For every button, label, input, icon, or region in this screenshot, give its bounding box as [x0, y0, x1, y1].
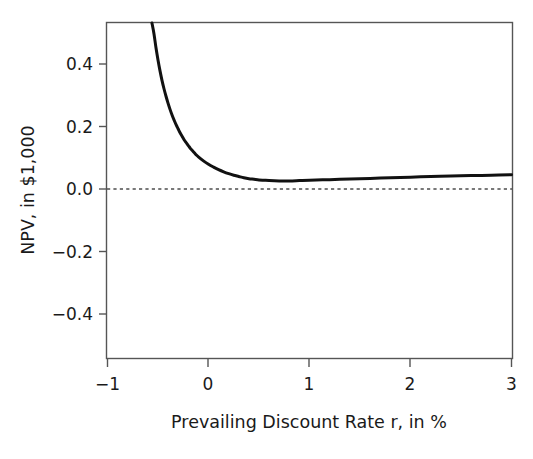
y-tick-label-4: −0.4: [52, 304, 93, 324]
chart-canvas: 0.4 0.2 0.0 −0.2 −0.4 −1 0 1 2 3 Prevail…: [0, 0, 533, 459]
y-tick-label-3: −0.2: [52, 242, 93, 262]
x-axis-title: Prevailing Discount Rate r, in %: [171, 412, 447, 432]
npv-chart-figure: 0.4 0.2 0.0 −0.2 −0.4 −1 0 1 2 3 Prevail…: [0, 0, 533, 459]
y-tick-label-1: 0.2: [66, 117, 93, 137]
x-tick-label-1: 0: [203, 374, 214, 394]
y-tick-label-2: 0.0: [66, 179, 93, 199]
x-tick-label-4: 3: [506, 374, 517, 394]
y-tick-label-0: 0.4: [66, 54, 93, 74]
x-tick-label-3: 2: [405, 374, 416, 394]
x-tick-label-2: 1: [304, 374, 315, 394]
y-axis-title: NPV, in $1,000: [18, 125, 38, 255]
x-tick-label-0: −1: [95, 374, 120, 394]
